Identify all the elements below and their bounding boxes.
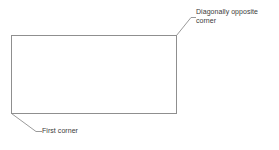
callout-label-line-1: First corner	[42, 127, 78, 136]
leader-line-diagonally-opposite-corner	[177, 18, 197, 36]
callout-label-diagonally-opposite-corner: Diagonally opposite corner	[196, 8, 258, 25]
callout-label-line-1: Diagonally opposite	[196, 8, 258, 17]
diagram-canvas: Diagonally opposite corner First corner	[0, 0, 279, 150]
leader-line-first-corner	[12, 114, 43, 132]
rectangle-shape	[12, 36, 177, 114]
callout-label-first-corner: First corner	[42, 127, 78, 136]
callout-label-line-2: corner	[196, 17, 258, 26]
